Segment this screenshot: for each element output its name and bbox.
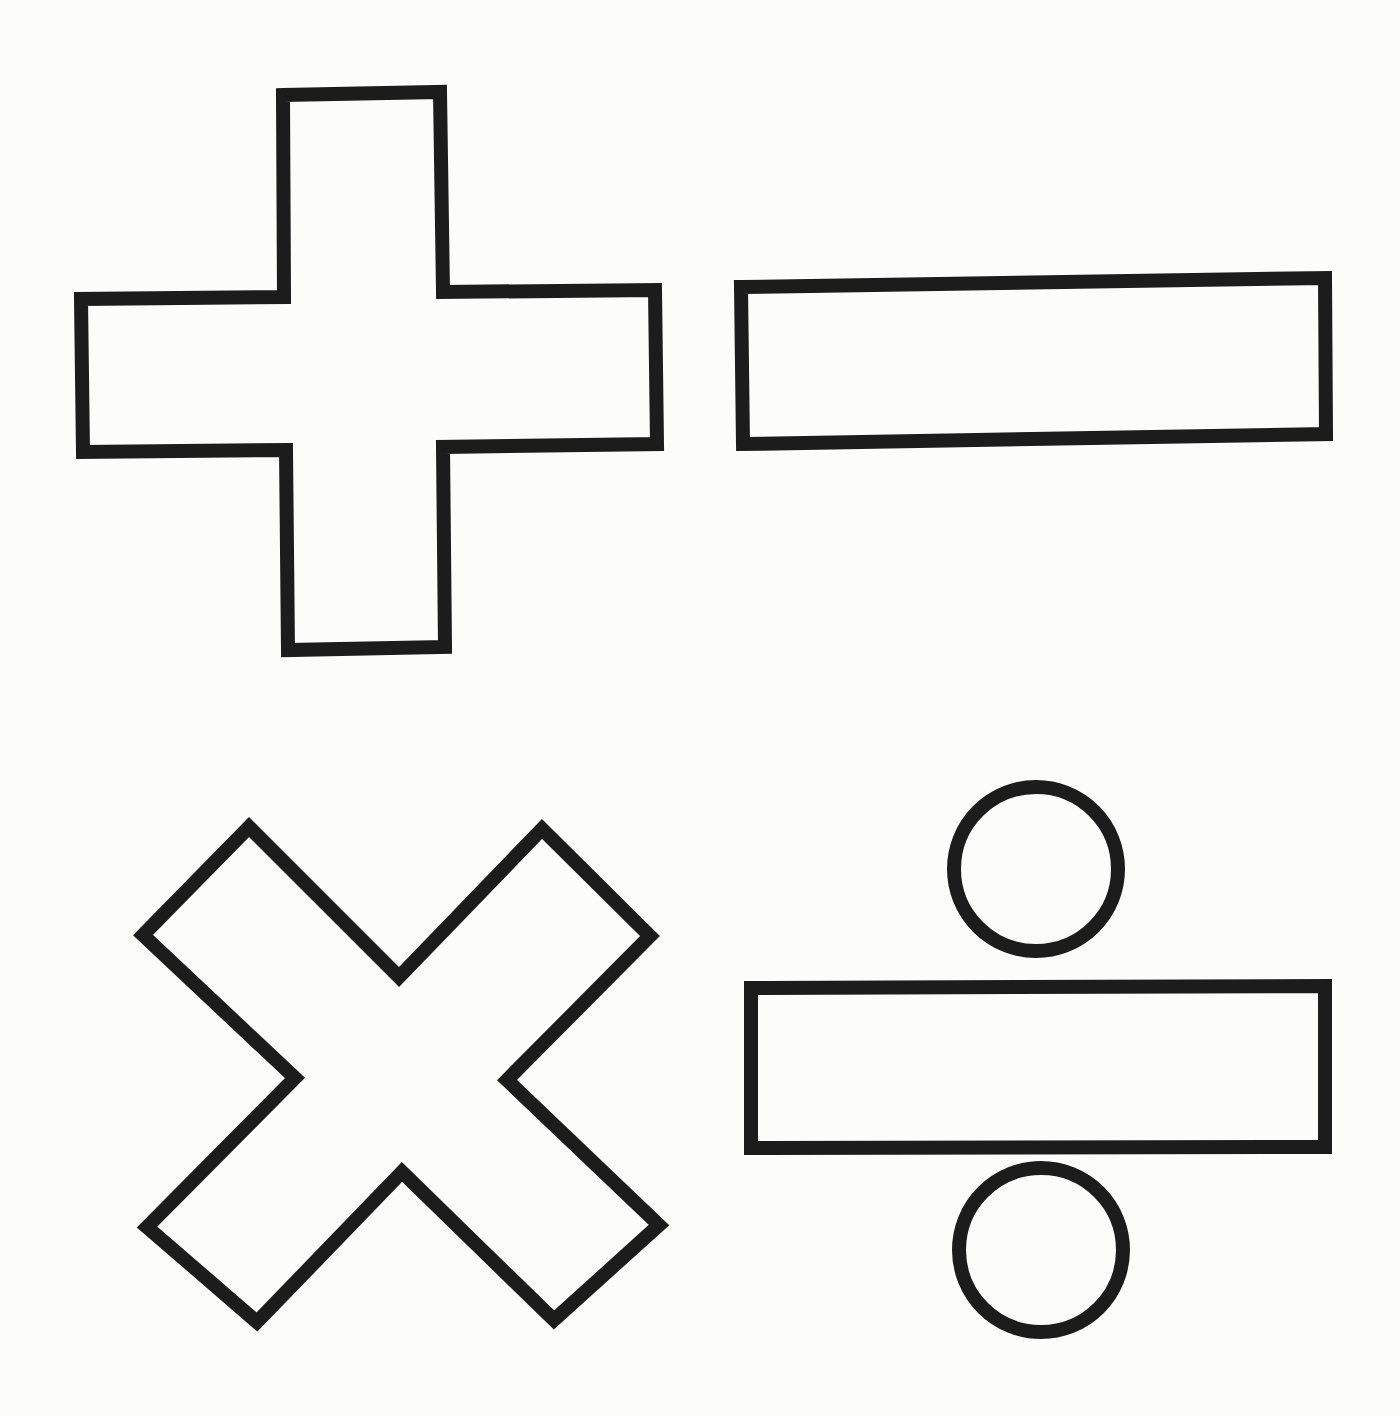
division-bar-outline (751, 986, 1325, 1148)
drawing-page: Arithmetic Operator Symbols Four hand-dr… (0, 0, 1400, 1416)
multiplication-sign-outline (143, 827, 659, 1322)
plus-sign-group (81, 92, 657, 650)
symbols-canvas (0, 0, 1400, 1416)
multiplication-sign-group (143, 827, 659, 1322)
division-bottom-dot-icon (959, 1168, 1123, 1332)
minus-sign-group (741, 278, 1326, 444)
division-sign-group (751, 787, 1325, 1332)
division-top-dot-icon (954, 787, 1118, 951)
operator-symbols-svg (0, 0, 1400, 1416)
minus-sign-outline (741, 278, 1326, 444)
plus-sign-outline (81, 92, 657, 650)
